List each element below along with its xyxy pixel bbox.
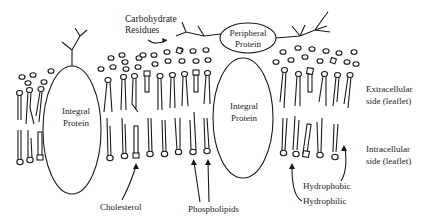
peripheral-label-line2: Protein (235, 39, 261, 49)
hydrophilic-label: Hydrophilic (303, 196, 347, 206)
carbohydrate-label-line2: Residues (125, 25, 160, 35)
integral-left-label-line2: Protein (63, 118, 89, 128)
extracellular-label-line1: Extracellular (366, 84, 412, 94)
phospholipids-arrowhead-left-icon (191, 159, 197, 165)
hydrophilic-arrow (292, 168, 302, 201)
hydrophobic-label: Hydrophobic (303, 181, 351, 191)
cholesterol-arrowhead-icon (133, 163, 139, 169)
intracellular-label-line2: side (leaflet) (366, 156, 411, 166)
integral-right-label-line2: Protein (231, 113, 257, 123)
cholesterol-label: Cholesterol (100, 202, 142, 212)
phospholipids-label: Phospholipids (188, 204, 240, 214)
membrane-svg: Carbohydrate Residues Peripheral Protein (0, 0, 426, 223)
carbohydrate-label-line1: Carbohydrate (125, 14, 177, 24)
peripheral-label-line1: Peripheral (230, 28, 267, 38)
membrane-diagram: Carbohydrate Residues Peripheral Protein (0, 0, 426, 223)
phospholipids-arrow-left (194, 162, 200, 202)
cholesterol-arrow (122, 166, 136, 200)
hydrophobic-arrow (341, 148, 346, 181)
hydrophobic-arrowhead-icon (341, 145, 347, 151)
integral-right-label-line1: Integral (230, 101, 258, 111)
extracellular-label-line2: side (leaflet) (366, 96, 411, 106)
hydrophilic-arrowhead-icon (289, 163, 295, 169)
intracellular-label-line1: Intracellular (366, 144, 410, 154)
phospholipids-arrow-right (208, 162, 209, 202)
integral-protein-left (43, 66, 101, 194)
phospholipids-arrowhead-right-icon (205, 159, 211, 165)
integral-left-label-line1: Integral (62, 106, 90, 116)
